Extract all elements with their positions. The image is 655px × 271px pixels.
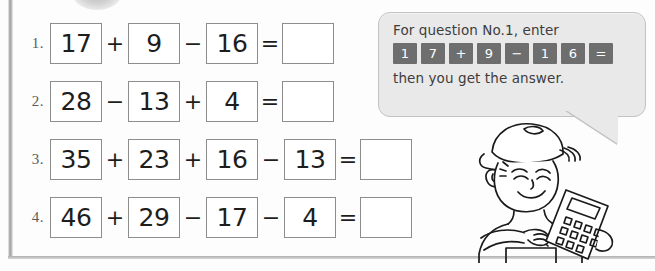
answer-input-box[interactable] (282, 81, 334, 122)
calc-key: 1 (393, 43, 417, 64)
term-box[interactable]: 13 (128, 81, 180, 122)
term-box[interactable]: 17 (206, 197, 258, 238)
calc-key: 9 (477, 43, 501, 64)
answer-input-box[interactable] (360, 197, 412, 238)
operator-symbol: − (258, 147, 284, 172)
term-box[interactable]: 23 (128, 139, 180, 180)
equals-symbol: = (336, 147, 360, 172)
operator-symbol: − (180, 31, 206, 56)
problem-row-3: 3. 35 + 23 + 16 − 13 = (18, 130, 488, 188)
page-badge-circle (72, 0, 122, 10)
calc-key-minus: − (505, 43, 529, 64)
term-box[interactable]: 46 (50, 197, 102, 238)
operator-symbol: − (258, 205, 284, 230)
calc-key: 1 (533, 43, 557, 64)
operator-symbol: + (180, 147, 206, 172)
instruction-speech-bubble: For question No.1, enter 1 7 + 9 − 1 6 =… (378, 12, 646, 117)
left-margin-rule (8, 0, 13, 258)
term-box[interactable]: 9 (128, 23, 180, 64)
operator-symbol: + (180, 89, 206, 114)
operator-symbol: − (102, 89, 128, 114)
answer-input-box[interactable] (360, 139, 412, 180)
term-box[interactable]: 4 (206, 81, 258, 122)
boy-with-calculator-illustration (448, 118, 653, 263)
problem-number: 3. (18, 151, 50, 168)
operator-symbol: − (180, 205, 206, 230)
problem-number: 4. (18, 209, 50, 226)
operator-symbol: + (102, 31, 128, 56)
term-box[interactable]: 17 (50, 23, 102, 64)
calc-key-equals: = (589, 43, 613, 64)
term-box[interactable]: 16 (206, 139, 258, 180)
operator-symbol: + (102, 147, 128, 172)
problem-row-4: 4. 46 + 29 − 17 − 4 = (18, 188, 488, 246)
term-box[interactable]: 16 (206, 23, 258, 64)
equals-symbol: = (258, 89, 282, 114)
equals-symbol: = (336, 205, 360, 230)
instruction-line-1: For question No.1, enter (393, 22, 631, 38)
calculator-key-sequence: 1 7 + 9 − 1 6 = (393, 43, 631, 64)
equals-symbol: = (258, 31, 282, 56)
operator-symbol: + (102, 205, 128, 230)
problem-number: 1. (18, 35, 50, 52)
term-box[interactable]: 4 (284, 197, 336, 238)
calc-key: 6 (561, 43, 585, 64)
term-box[interactable]: 35 (50, 139, 102, 180)
term-box[interactable]: 29 (128, 197, 180, 238)
worksheet-page: 1. 17 + 9 − 16 = 2. 28 − 13 + 4 = 3. 35 … (0, 0, 655, 271)
term-box[interactable]: 28 (50, 81, 102, 122)
answer-input-box[interactable] (282, 23, 334, 64)
calc-key-plus: + (449, 43, 473, 64)
term-box[interactable]: 13 (284, 139, 336, 180)
problem-number: 2. (18, 93, 50, 110)
instruction-line-2: then you get the answer. (393, 70, 631, 86)
calc-key: 7 (421, 43, 445, 64)
